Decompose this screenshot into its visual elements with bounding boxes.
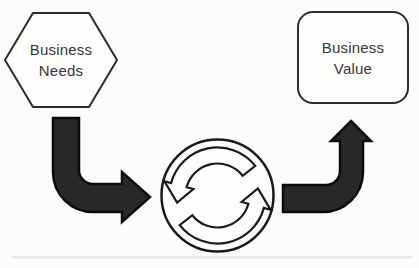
cycle-icon [155,133,280,258]
business-needs-label-line1: Business [30,39,92,60]
business-value-label-line2: Value [334,58,372,79]
diagram-canvas: Business Needs Business Value [0,0,419,268]
business-value-label-line1: Business [322,37,384,58]
scan-artifact-line [12,256,412,259]
elbow-arrow-down-right-icon [50,115,154,227]
business-needs-label: Business Needs [4,11,118,109]
business-value-label: Business Value [297,11,409,104]
business-needs-label-line2: Needs [39,60,83,81]
elbow-arrow-right-up-icon [280,118,374,216]
